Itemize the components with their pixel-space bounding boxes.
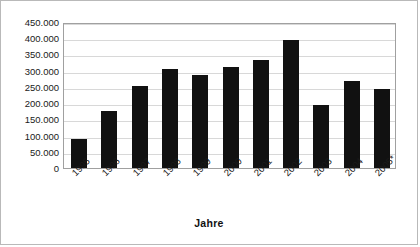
bar [223,67,239,168]
y-axis-tick-label: 450.000 [1,18,59,28]
y-axis-tick-label: 400.000 [1,34,59,44]
y-axis-tick-label: 150.000 [1,115,59,125]
y-axis-tick-label: 300.000 [1,67,59,77]
y-axis-tick-label: 50.000 [1,148,59,158]
chart-container: 050.000100.000150.000200.000250.000300.0… [0,0,418,245]
bar [192,75,208,168]
y-axis-tick-label: 0 [1,164,59,174]
y-axis: 050.000100.000150.000200.000250.000300.0… [1,1,59,181]
y-axis-tick-label: 200.000 [1,99,59,109]
bar-series [64,24,395,168]
bar [162,69,178,168]
bar [283,40,299,168]
plot-area [63,23,396,169]
y-axis-tick-label: 250.000 [1,83,59,93]
x-axis: 1995199619971998199920002001200220032004… [63,171,396,215]
y-axis-tick-label: 350.000 [1,50,59,60]
y-axis-tick-label: 100.000 [1,132,59,142]
bar [253,60,269,168]
x-axis-title: Jahre [1,217,417,229]
